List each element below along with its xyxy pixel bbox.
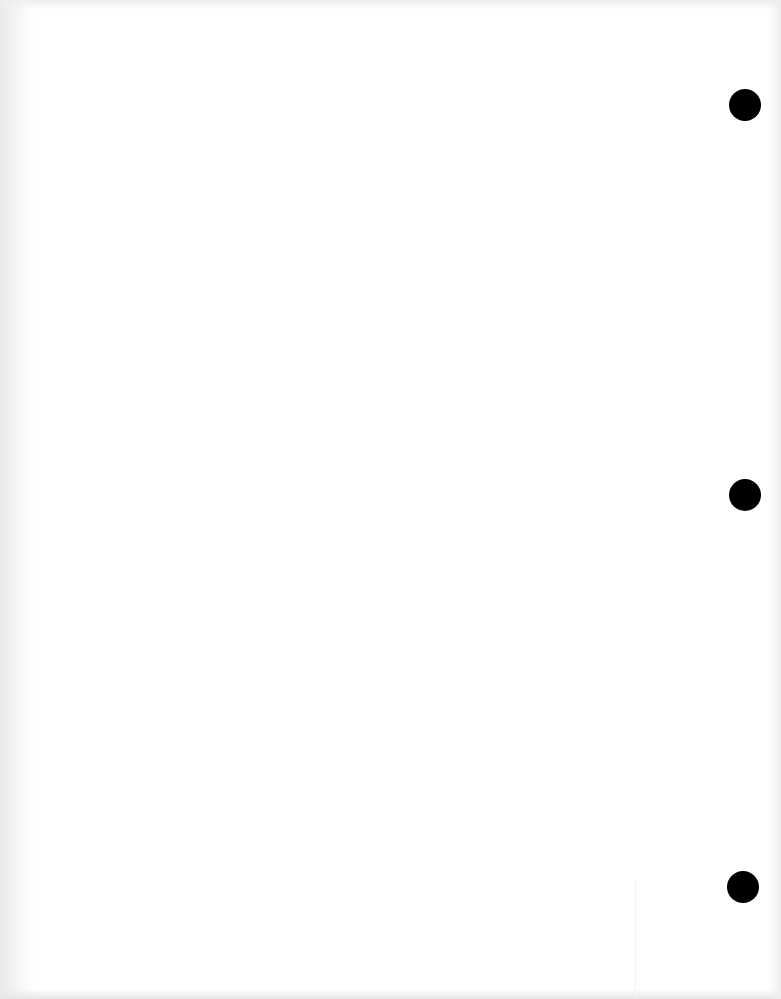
bottom-scan-shadow xyxy=(0,989,781,999)
punch-hole-top xyxy=(729,89,761,121)
scanned-page xyxy=(0,0,781,999)
left-scan-shadow xyxy=(0,0,34,999)
faint-crease-line xyxy=(635,880,636,999)
punch-hole-middle xyxy=(729,479,761,511)
top-scan-shadow xyxy=(0,0,781,10)
punch-hole-bottom xyxy=(727,871,759,903)
right-scan-shadow xyxy=(769,0,781,999)
